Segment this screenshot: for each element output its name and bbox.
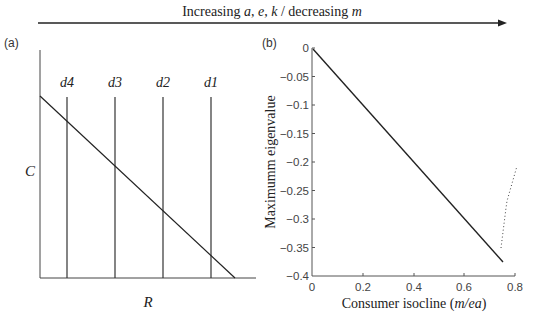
- d3-label: d3: [108, 75, 122, 90]
- a-xlabel: R: [142, 294, 152, 310]
- d4-label: d4: [60, 75, 74, 90]
- header-arrow: Increasing a, e, k / decreasing m: [38, 4, 507, 27]
- d1-label: d1: [204, 75, 218, 90]
- b-xtick-2: 0.4: [406, 281, 423, 293]
- b-ytick-7: −0.35: [280, 242, 309, 254]
- b-ytick-3: −0.15: [280, 128, 309, 140]
- header-text: Increasing a, e, k / decreasing m: [182, 4, 362, 19]
- b-yticks: 0 −0.05 −0.1 −0.15 −0.2 −0.25 −0.3 −0.35…: [280, 42, 315, 282]
- b-ytick-1: −0.05: [280, 71, 309, 83]
- b-xtick-4: 0.8: [507, 281, 523, 293]
- b-xlabel: Consumer isocline (m/ea): [342, 296, 487, 312]
- panel-b-label: (b): [262, 36, 277, 50]
- b-ytick-4: −0.2: [286, 156, 309, 168]
- figure: Increasing a, e, k / decreasing m (a) d4…: [0, 0, 543, 317]
- b-xtick-0: 0: [309, 281, 315, 293]
- panel-a-label: (a): [4, 36, 19, 50]
- panel-b: (b) Maximumm eigenvalue 0 −0.05 −0.1 −0.…: [262, 36, 523, 312]
- b-ytick-2: −0.1: [286, 99, 309, 111]
- b-ylabel: Maximumm eigenvalue: [263, 95, 278, 228]
- b-solid-series: [313, 49, 503, 262]
- b-dotted-series: [501, 166, 517, 248]
- b-ytick-0: 0: [303, 42, 309, 54]
- d2-label: d2: [156, 75, 170, 90]
- b-xtick-1: 0.2: [355, 281, 371, 293]
- a-diagonal-line: [40, 96, 235, 278]
- panel-a: (a) d4 d3 d2 d1 C R: [4, 36, 256, 310]
- b-xtick-3: 0.6: [456, 281, 472, 293]
- b-ytick-8: −0.4: [286, 270, 309, 282]
- b-ytick-5: −0.25: [280, 185, 309, 197]
- arrow-head-icon: [498, 20, 507, 27]
- a-ylabel: C: [25, 163, 36, 179]
- b-ytick-6: −0.3: [286, 213, 309, 225]
